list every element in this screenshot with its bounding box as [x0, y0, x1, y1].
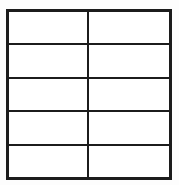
table-cell-r4c2[interactable] [88, 111, 170, 145]
table-cell-r1c1[interactable] [8, 11, 89, 45]
table-cell-r2c1[interactable] [8, 44, 89, 78]
table-cell-r1c2[interactable] [88, 11, 170, 45]
table-row [8, 11, 171, 45]
table-cell-r3c1[interactable] [8, 78, 89, 112]
table-row [8, 111, 171, 145]
table-row [8, 44, 171, 78]
table-cell-r2c2[interactable] [88, 44, 170, 78]
table-cell-r3c2[interactable] [88, 78, 170, 112]
table-row [8, 78, 171, 112]
table-cell-r4c1[interactable] [8, 111, 89, 145]
figure-root [0, 0, 179, 185]
grid-table [6, 9, 172, 180]
grid-table-body [8, 11, 171, 179]
table-cell-r5c1-shaded[interactable] [8, 145, 89, 179]
table-row [8, 145, 171, 179]
table-cell-r5c2[interactable] [88, 145, 170, 179]
